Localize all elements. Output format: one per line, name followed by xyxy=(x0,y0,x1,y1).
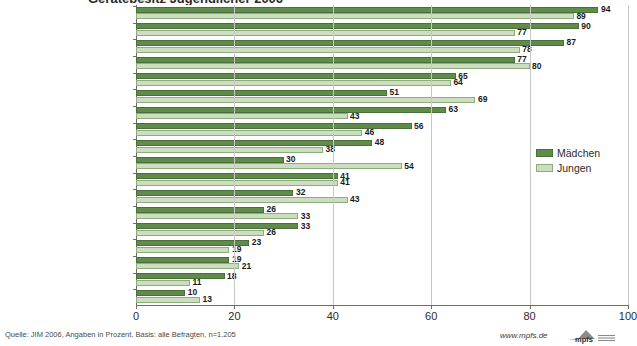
x-tick-mark xyxy=(136,305,137,309)
x-tick-label: 0 xyxy=(133,310,139,322)
chart-row: Mini-Disc-Rekorder1811 xyxy=(136,272,628,289)
bar-value-label: 54 xyxy=(404,163,413,169)
bar-value-label: 43 xyxy=(350,196,359,202)
chart-row: UMTS-Handy [/-Karte]1921 xyxy=(136,255,628,272)
bar-girls xyxy=(136,157,284,163)
bar-girls xyxy=(136,40,564,46)
bar-boys xyxy=(136,147,323,153)
x-tick-mark xyxy=(431,305,432,309)
bar-boys xyxy=(136,247,229,253)
bar-value-label: 26 xyxy=(266,206,275,212)
x-tick-label: 60 xyxy=(425,310,437,322)
svg-text:mpfs: mpfs xyxy=(575,335,593,344)
chart-row: Kassettenrekorder5646 xyxy=(136,122,628,139)
bar-value-label: 30 xyxy=(286,156,295,162)
chart-row: MP3-Player7780 xyxy=(136,55,628,72)
gridline xyxy=(234,5,235,305)
bar-value-label: 63 xyxy=(448,106,457,112)
chart-row: Computer/Laptop5169 xyxy=(136,88,628,105)
chart-row: Walkman, Discman6343 xyxy=(136,105,628,122)
x-tick-label: 40 xyxy=(327,310,339,322)
mpfs-logo-icon: mpfs xyxy=(565,324,627,344)
bar-value-label: 69 xyxy=(478,96,487,102)
chart-row: CD-Player9077 xyxy=(136,22,628,39)
x-axis-line xyxy=(136,305,629,306)
chart-row: Radio8778 xyxy=(136,38,628,55)
bar-value-label: 90 xyxy=(581,23,590,29)
bar-girls xyxy=(136,90,387,96)
gridline xyxy=(431,5,432,305)
bar-girls xyxy=(136,73,456,79)
chart-row: PSP1013 xyxy=(136,288,628,305)
gridline xyxy=(333,5,334,305)
bar-girls xyxy=(136,207,264,213)
legend-swatch-girls-icon xyxy=(536,149,553,157)
bar-value-label: 19 xyxy=(232,256,241,262)
bar-value-label: 64 xyxy=(453,79,462,85)
chart-row: Digitalkamera3326 xyxy=(136,222,628,239)
chart-row: Handy9489 xyxy=(136,5,628,22)
bar-value-label: 56 xyxy=(414,123,423,129)
bar-value-label: 41 xyxy=(340,179,349,185)
bar-boys xyxy=(136,180,338,186)
bar-boys xyxy=(136,13,574,19)
bar-boys xyxy=(136,30,515,36)
bar-value-label: 80 xyxy=(532,63,541,69)
bar-boys xyxy=(136,230,264,236)
bar-boys xyxy=(136,197,348,203)
bar-value-label: 46 xyxy=(365,129,374,135)
bar-value-label: 21 xyxy=(242,263,251,269)
bar-girls xyxy=(136,23,579,29)
bar-girls xyxy=(136,190,293,196)
bar-value-label: 26 xyxy=(266,229,275,235)
bar-value-label: 19 xyxy=(232,246,241,252)
x-tick-label: 20 xyxy=(228,310,240,322)
bar-girls xyxy=(136,273,225,279)
bar-boys xyxy=(136,47,520,53)
bar-girls xyxy=(136,173,338,179)
bar-boys xyxy=(136,280,190,286)
bar-value-label: 87 xyxy=(567,39,576,45)
bar-value-label: 43 xyxy=(350,113,359,119)
bar-value-label: 77 xyxy=(517,56,526,62)
bar-value-label: 23 xyxy=(252,239,261,245)
bar-value-label: 32 xyxy=(296,189,305,195)
bar-boys xyxy=(136,263,239,269)
x-tick-mark xyxy=(530,305,531,309)
bar-value-label: 33 xyxy=(301,223,310,229)
chart-row: Internetzugang3243 xyxy=(136,188,628,205)
x-tick-label: 80 xyxy=(523,310,535,322)
bar-value-label: 10 xyxy=(188,289,197,295)
x-tick-mark xyxy=(333,305,334,309)
legend-swatch-boys-icon xyxy=(536,164,553,172)
chart-row: Fernsehgerät6564 xyxy=(136,72,628,89)
bar-girls xyxy=(136,257,229,263)
bar-girls xyxy=(136,57,515,63)
bar-value-label: 51 xyxy=(389,89,398,95)
legend-label-boys: Jungen xyxy=(557,162,591,174)
bar-value-label: 94 xyxy=(601,6,610,12)
bar-boys xyxy=(136,97,475,103)
x-tick-mark xyxy=(234,305,235,309)
chart-row: Mini-Radio2319 xyxy=(136,238,628,255)
bar-boys xyxy=(136,297,200,303)
bar-value-label: 11 xyxy=(193,279,202,285)
chart-legend: Mädchen Jungen xyxy=(536,147,600,177)
bar-value-label: 33 xyxy=(301,213,310,219)
bar-boys xyxy=(136,163,402,169)
bar-boys xyxy=(136,130,362,136)
x-tick-label: 100 xyxy=(619,310,637,322)
bar-value-label: 48 xyxy=(375,139,384,145)
bar-boys xyxy=(136,80,451,86)
website-url: www.mpfs.de xyxy=(500,331,548,340)
bar-boys xyxy=(136,113,348,119)
bar-girls xyxy=(136,290,185,296)
source-note: Quelle: JIM 2006, Angaben in Prozent, Ba… xyxy=(5,330,236,339)
gridline xyxy=(628,5,629,305)
bar-girls xyxy=(136,140,372,146)
bar-girls xyxy=(136,107,446,113)
bar-value-label: 13 xyxy=(202,296,211,302)
legend-item-girls: Mädchen xyxy=(536,147,600,159)
gridline xyxy=(530,5,531,305)
legend-item-boys: Jungen xyxy=(536,162,600,174)
